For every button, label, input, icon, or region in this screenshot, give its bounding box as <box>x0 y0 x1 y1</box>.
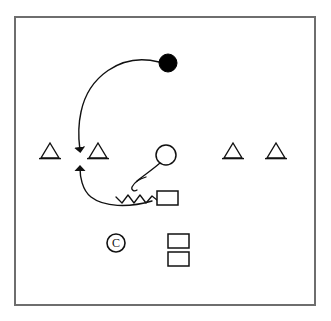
center-marker-label: C <box>112 236 120 250</box>
blocker-1[interactable] <box>157 191 178 205</box>
ball-carrier[interactable] <box>159 54 177 72</box>
blocker-2[interactable] <box>168 234 189 248</box>
blocker-3[interactable] <box>168 252 189 266</box>
receiver[interactable] <box>156 145 176 165</box>
diagram-canvas: C <box>0 0 331 321</box>
center-marker[interactable]: C <box>107 234 125 252</box>
play-diagram: C <box>0 0 331 321</box>
